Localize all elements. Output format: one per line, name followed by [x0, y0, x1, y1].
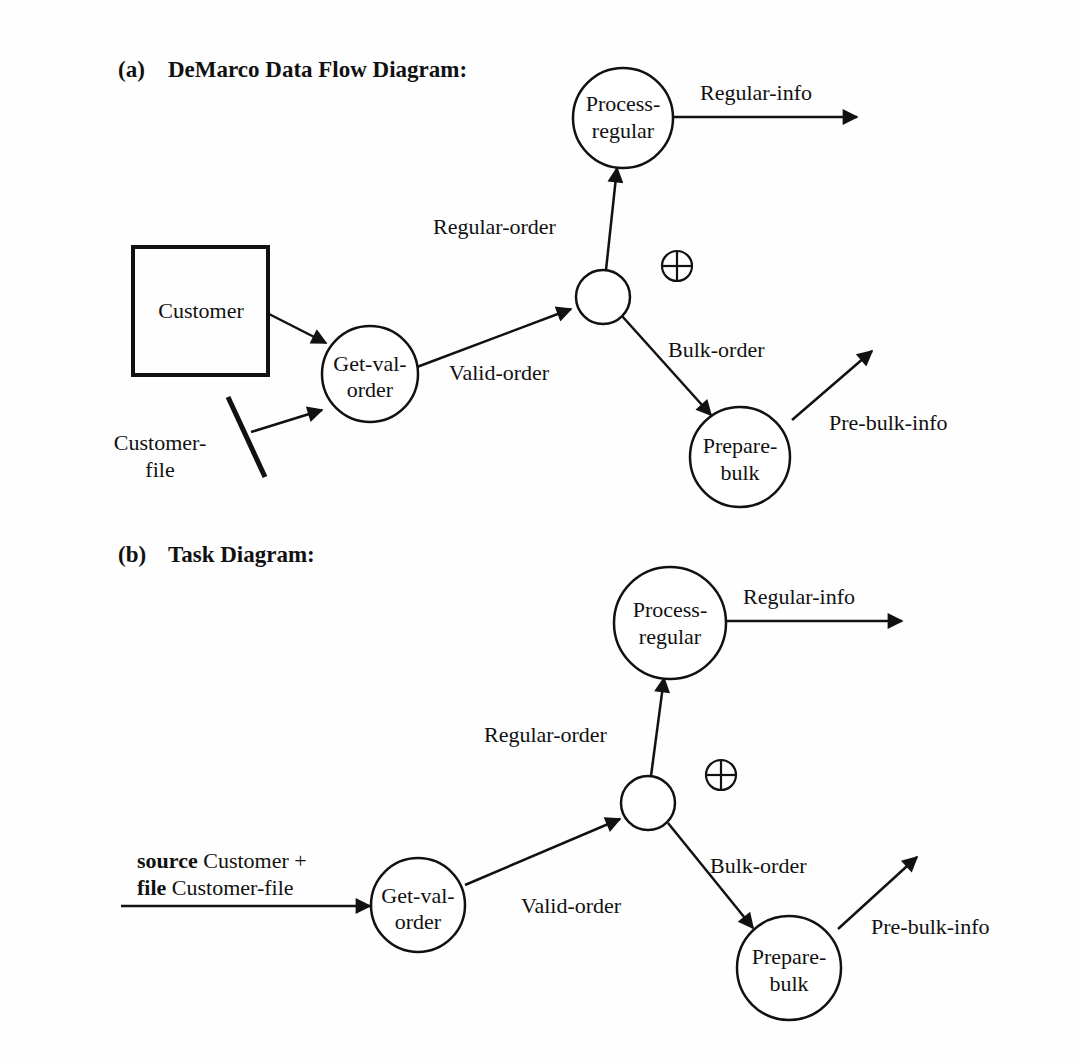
diagram-a-title: (a) [117, 57, 173, 82]
customer-file-store [228, 397, 265, 477]
branch-node [576, 270, 630, 324]
task-process-regular-label-2: regular [639, 624, 702, 649]
diagram-b: (b) Task Diagram: source Customer + file… [118, 542, 990, 1020]
flow-bulk-order [622, 316, 711, 415]
task-get-val-order-label-1: Get-val- [381, 883, 454, 908]
regular-info-label: Regular-info [700, 80, 812, 105]
task-bulk-order-label: Bulk-order [710, 853, 807, 878]
flow-regular-order [606, 168, 617, 270]
task-valid-order-label: Valid-order [521, 893, 622, 918]
flow-valid-order [417, 309, 571, 367]
task-flow-valid-order [465, 819, 620, 885]
flow-customer-file-to-get-val-order [251, 410, 322, 432]
task-pre-bulk-info-label: Pre-bulk-info [871, 914, 990, 939]
process-regular-label-1: Process- [586, 91, 661, 116]
diagram-a: (a) (a) DeMarco Data Flow Diagram: Custo… [114, 57, 948, 507]
task-regular-order-label: Regular-order [484, 722, 608, 747]
flow-customer-to-get-val-order [269, 314, 326, 343]
valid-order-label: Valid-order [449, 360, 550, 385]
input-line-1: source Customer + [137, 848, 307, 873]
file-text: Customer-file [166, 875, 293, 900]
customer-entity-label: Customer [158, 298, 244, 323]
bulk-order-label: Bulk-order [668, 337, 765, 362]
task-flow-regular-order [651, 678, 664, 776]
diagram-b-title: Task Diagram: [168, 542, 315, 567]
customer-file-label-1: Customer- [114, 430, 206, 455]
task-xor-icon [706, 760, 736, 790]
source-keyword: source [137, 848, 198, 873]
diagram-canvas: (a) (a) DeMarco Data Flow Diagram: Custo… [0, 0, 1081, 1063]
task-process-regular-label-1: Process- [633, 597, 708, 622]
pre-bulk-info-label: Pre-bulk-info [829, 410, 948, 435]
customer-file-label-2: file [145, 457, 174, 482]
input-line-2: file Customer-file [137, 875, 294, 900]
file-keyword: file [137, 875, 167, 900]
regular-order-label: Regular-order [433, 214, 557, 239]
task-process-regular [614, 567, 726, 679]
task-get-val-order-label-2: order [395, 909, 442, 934]
get-val-order-label-1: Get-val- [333, 351, 406, 376]
task-prepare-bulk-label-1: Prepare- [752, 944, 827, 969]
task-branch-node [621, 776, 675, 830]
diagram-b-label: (b) [118, 542, 146, 567]
source-text: Customer + [198, 848, 307, 873]
task-prepare-bulk-label-2: bulk [769, 971, 808, 996]
process-regular-label-2: regular [592, 118, 655, 143]
diagram-a-title-text: DeMarco Data Flow Diagram: [168, 57, 467, 82]
task-regular-info-label: Regular-info [743, 584, 855, 609]
xor-icon [662, 251, 692, 281]
prepare-bulk-label-2: bulk [720, 460, 759, 485]
get-val-order-label-2: order [347, 377, 394, 402]
prepare-bulk-label-1: Prepare- [703, 433, 778, 458]
figure: (a) (a) DeMarco Data Flow Diagram: Custo… [0, 0, 1081, 1063]
